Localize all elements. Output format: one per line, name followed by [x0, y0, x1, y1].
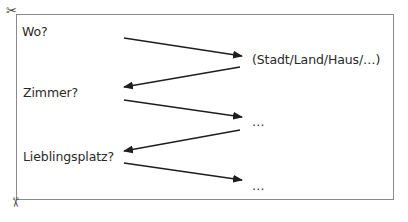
arrow-4-icon	[124, 130, 240, 151]
arrow-2-icon	[124, 67, 240, 87]
arrow-3-icon	[124, 100, 242, 117]
arrow-5-icon	[124, 163, 242, 180]
arrow-1-icon	[124, 38, 242, 56]
arrows-layer	[0, 0, 408, 222]
